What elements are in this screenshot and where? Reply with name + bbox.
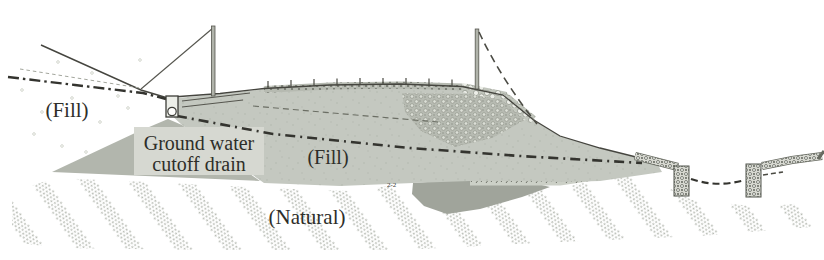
left-mast-pole	[212, 26, 216, 96]
gabion-pier-left	[674, 166, 689, 196]
label-groundwater-line2: cutoff drain	[152, 153, 246, 175]
label-groundwater-line1: Ground water	[144, 132, 255, 154]
cross-section-diagram: (Fill) Ground water cutoff drain (Fill) …	[0, 0, 824, 260]
right-mast-pole	[475, 29, 479, 89]
label-fill-left: (Fill)	[45, 98, 88, 122]
gabion-pier-right	[746, 164, 761, 197]
label-natural: (Natural)	[269, 205, 346, 229]
label-fill-center: (Fill)	[307, 146, 348, 169]
label-section-mark: 2-2	[387, 181, 397, 189]
drain-pipe-circle	[168, 107, 176, 115]
cross-section-figure: (Fill) Ground water cutoff drain (Fill) …	[0, 0, 824, 260]
